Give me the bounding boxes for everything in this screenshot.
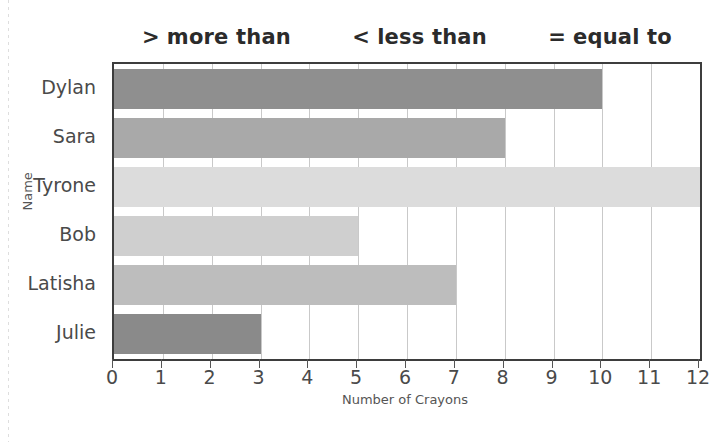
y-axis-title: Name xyxy=(20,197,35,211)
x-tick-label-4: 4 xyxy=(301,366,313,388)
x-axis-title: Number of Crayons xyxy=(112,392,698,407)
bar-series xyxy=(114,64,700,359)
y-label-bob: Bob xyxy=(59,214,96,254)
bar-fill xyxy=(114,167,700,207)
x-tick-label-10: 10 xyxy=(588,366,612,388)
x-tick-label-9: 9 xyxy=(545,366,557,388)
legend-symbol: = xyxy=(548,25,566,49)
x-tick-label-3: 3 xyxy=(252,366,264,388)
legend-text: equal to xyxy=(573,25,672,49)
y-label-julie: Julie xyxy=(56,312,96,352)
y-label-dylan: Dylan xyxy=(41,67,96,107)
bar-fill xyxy=(114,118,505,158)
x-tick-label-8: 8 xyxy=(497,366,509,388)
x-tick-label-7: 7 xyxy=(448,366,460,388)
bar-fill xyxy=(114,314,261,354)
x-tick-label-5: 5 xyxy=(350,366,362,388)
bar-sara xyxy=(114,118,505,158)
bar-chart-plot-area xyxy=(112,62,702,361)
y-axis-category-labels: DylanSaraTyroneBobLatishaJulie xyxy=(0,62,104,357)
bar-fill xyxy=(114,69,602,109)
y-label-sara: Sara xyxy=(53,116,96,156)
comparison-symbol-legend: >more than<less than=equal to xyxy=(112,22,698,52)
bar-tyrone xyxy=(114,167,700,207)
bar-fill xyxy=(114,216,358,256)
x-tick-label-2: 2 xyxy=(204,366,216,388)
legend-item-equal-to: =equal to xyxy=(548,25,672,49)
bar-latisha xyxy=(114,265,456,305)
x-tick-label-1: 1 xyxy=(155,366,167,388)
legend-text: less than xyxy=(377,25,487,49)
x-tick-label-12: 12 xyxy=(686,366,710,388)
bar-julie xyxy=(114,314,261,354)
bar-dylan xyxy=(114,69,602,109)
bar-fill xyxy=(114,265,456,305)
bar-bob xyxy=(114,216,358,256)
x-tick-label-0: 0 xyxy=(106,366,118,388)
x-tick-label-11: 11 xyxy=(637,366,661,388)
legend-item-more-than: >more than xyxy=(142,25,291,49)
legend-item-less-than: <less than xyxy=(352,25,486,49)
x-axis-tick-labels: 0123456789101112 xyxy=(112,366,698,392)
legend-symbol: > xyxy=(142,25,160,49)
legend-text: more than xyxy=(167,25,291,49)
legend-symbol: < xyxy=(352,25,370,49)
y-label-latisha: Latisha xyxy=(27,263,96,303)
x-tick-label-6: 6 xyxy=(399,366,411,388)
y-label-tyrone: Tyrone xyxy=(33,165,96,205)
